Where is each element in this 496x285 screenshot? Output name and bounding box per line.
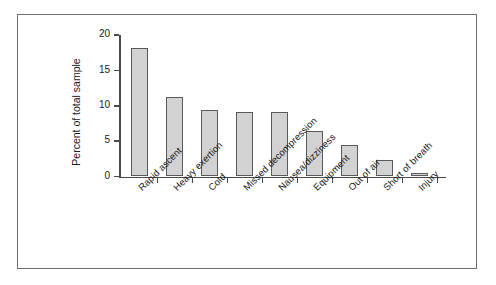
- y-axis-line: [119, 35, 121, 178]
- bar-chart-plot: Percent of total sample 05101520 Rapid a…: [18, 15, 478, 270]
- y-tick-label: 20: [99, 27, 110, 40]
- y-axis-title: Percent of total sample: [70, 57, 82, 167]
- y-tick-label: 0: [104, 169, 110, 182]
- y-tick: 15: [114, 70, 119, 72]
- figure-frame: Percent of total sample 05101520 Rapid a…: [17, 14, 477, 269]
- y-tick-label: 10: [99, 98, 110, 111]
- y-tick: 10: [114, 105, 119, 107]
- bar: [131, 48, 148, 176]
- y-tick: 5: [114, 140, 119, 142]
- y-tick: 20: [114, 34, 119, 36]
- y-tick-label: 5: [104, 133, 110, 146]
- y-tick: 0: [114, 176, 119, 178]
- bar: [236, 112, 253, 176]
- y-tick-label: 15: [99, 63, 110, 76]
